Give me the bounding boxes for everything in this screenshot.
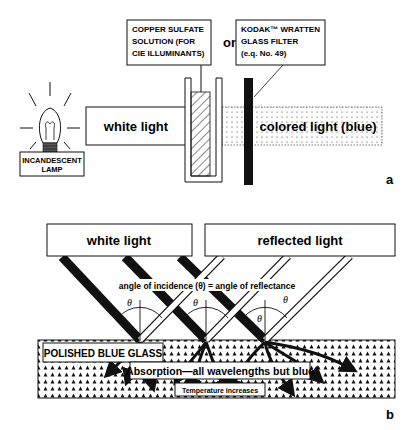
white-light-label: white light [103,119,169,134]
panel-letter-a: a [386,172,394,187]
glass-filter-bar [244,78,253,185]
temperature-label-text: Temperature increases [182,387,258,395]
copper-label-line1: COPPER SULFATE [132,25,205,34]
colored-light-label: colored light (blue) [260,119,377,134]
copper-label-line3: CIE ILLUMINANTS) [132,49,205,58]
absorption-label-text: Absorption—all wavelengths but blue [126,365,314,377]
white-light-box-label: white light [86,233,152,248]
reflected-light-box-label: reflected light [257,233,343,248]
angle-statement-text: angle of incidence (θ) = angle of reflec… [119,281,296,291]
panel-a: INCANDESCENT LAMP white light colored li… [20,20,394,187]
angle-statement: angle of incidence (θ) = angle of reflec… [112,279,302,291]
absorption-label: Absorption—all wavelengths but blue [126,362,314,379]
glass-label: POLISHED BLUE GLASS [43,343,163,362]
white-light-beam: white light [86,107,186,145]
copper-label-line2: SOLUTION (FOR [132,37,195,46]
theta-label: θ [283,294,288,305]
light-bulb-icon [39,108,60,152]
copper-sulfate-label: COPPER SULFATE SOLUTION (FOR CIE ILLUMIN… [127,20,211,65]
lamp-label-line1: INCANDESCENT [22,156,82,165]
incident-beams [62,257,265,340]
panel-b: θ θ θ θ POLISHED BLUE GLASS Absorption—a… [38,224,395,422]
theta-label: θ [257,313,262,324]
lamp-label-line2: LAMP [41,165,62,174]
or-label: or [223,35,236,50]
lamp-label: INCANDESCENT LAMP [20,152,84,176]
theta-label: θ [193,297,198,308]
glass-label-text: POLISHED BLUE GLASS [44,348,163,359]
light-filter-diagram: INCANDESCENT LAMP white light colored li… [0,0,415,430]
reflected-light-box: reflected light [205,224,395,256]
panel-letter-b: b [386,407,394,422]
kodak-label-line2: GLASS FILTER [241,37,298,46]
kodak-label-line1: KODAK™ WRATTEN [241,25,320,34]
white-light-box: white light [47,224,192,256]
copper-sulfate-cell [185,65,222,182]
temperature-label: Temperature increases [175,383,265,396]
reflected-beams [140,256,350,340]
kodak-label-line3: (e.q. No. 49) [241,49,287,58]
theta-label: θ [127,297,132,308]
